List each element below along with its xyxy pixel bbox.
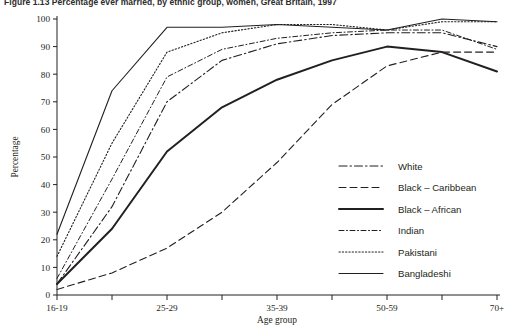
legend-label-3: Black – African — [398, 204, 461, 215]
y-tick-label: 80 — [41, 70, 51, 80]
x-tick-label: 25-29 — [156, 303, 178, 313]
legend-label-1: White — [398, 161, 423, 172]
x-tick-label: 50-59 — [376, 303, 398, 313]
figure-container: Figure 1.13 Percentage ever married, by … — [0, 0, 505, 330]
y-tick-label: 30 — [41, 208, 51, 218]
series-line-pakistani — [57, 22, 497, 257]
y-tick-label: 90 — [41, 42, 51, 52]
x-tick-label: 16-19 — [46, 303, 68, 313]
y-tick-label: 50 — [41, 152, 51, 162]
y-tick-label: 100 — [36, 14, 50, 24]
y-tick-label: 20 — [41, 235, 51, 245]
x-tick-label: 35-39 — [266, 303, 288, 313]
legend-label-4: Indian — [398, 225, 424, 236]
y-axis-title: Percentage — [10, 136, 20, 177]
y-tick-label: 40 — [41, 180, 51, 190]
chart-legend: WhiteBlack – CaribbeanBlack – AfricanInd… — [339, 161, 476, 280]
line-chart: 010203040506070809010016-1925-2935-3950-… — [0, 0, 505, 330]
x-axis-title: Age group — [257, 315, 297, 325]
series-line-indian — [57, 30, 497, 278]
y-tick-label: 60 — [41, 125, 51, 135]
legend-label-6: Bangladeshi — [398, 268, 451, 279]
x-tick-label: 70+ — [490, 303, 504, 313]
y-tick-label: 0 — [45, 290, 50, 300]
y-tick-label: 70 — [41, 97, 51, 107]
legend-label-2: Black – Caribbean — [398, 182, 476, 193]
y-tick-label: 10 — [41, 263, 51, 273]
legend-label-5: Pakistani — [398, 247, 437, 258]
